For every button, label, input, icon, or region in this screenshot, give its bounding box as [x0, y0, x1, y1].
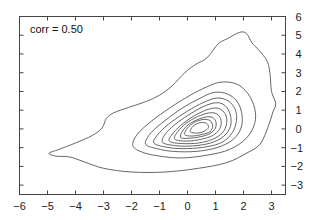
- contour-level-6: [169, 108, 227, 144]
- y-tick-label: 6: [296, 11, 302, 23]
- y-tick-label: 5: [296, 29, 302, 41]
- plot-frame: [20, 17, 286, 195]
- contour-chart: −6−5−4−3−2−10123 −3−2−10123456 corr = 0.…: [0, 0, 316, 220]
- y-tick-label: −3: [291, 179, 304, 191]
- contour-level-10: [190, 123, 208, 134]
- y-tick-label: −2: [291, 160, 304, 172]
- y-tick-label: 0: [296, 123, 302, 135]
- x-tick-label: −6: [13, 200, 26, 212]
- y-tick-label: 1: [296, 104, 302, 116]
- x-axis: −6−5−4−3−2−10123: [13, 17, 274, 212]
- contour-lines: [49, 32, 276, 173]
- x-tick-label: −1: [153, 200, 166, 212]
- x-tick-label: −4: [69, 200, 82, 212]
- correlation-annotation: corr = 0.50: [30, 23, 83, 35]
- x-tick-label: 1: [212, 200, 218, 212]
- x-tick-label: 2: [240, 200, 246, 212]
- y-tick-label: 4: [296, 48, 302, 60]
- x-tick-label: −5: [41, 200, 54, 212]
- x-tick-label: 0: [184, 200, 190, 212]
- y-tick-label: −1: [291, 142, 304, 154]
- x-tick-label: 3: [268, 200, 274, 212]
- x-tick-label: −3: [97, 200, 110, 212]
- contour-level-2: [133, 82, 256, 158]
- contour-level-4: [154, 98, 237, 149]
- y-tick-label: 2: [296, 85, 302, 97]
- y-axis: −3−2−10123456: [20, 11, 304, 192]
- contour-level-1: [49, 32, 276, 173]
- y-tick-label: 3: [296, 67, 302, 79]
- x-tick-label: −2: [125, 200, 138, 212]
